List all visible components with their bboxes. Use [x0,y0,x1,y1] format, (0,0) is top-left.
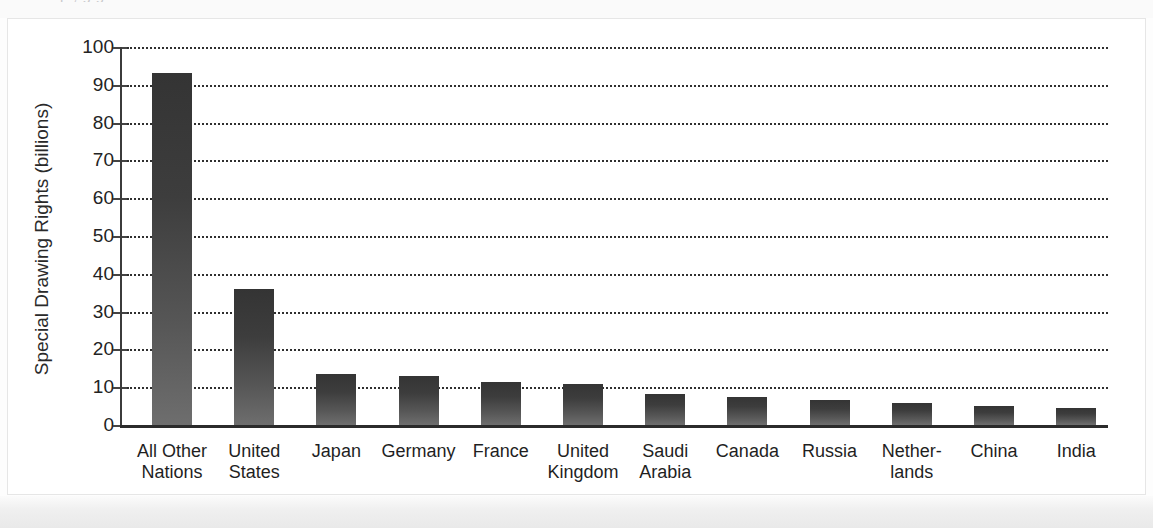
x-tick-label-line: States [199,462,309,483]
bar [1056,408,1096,425]
x-tick-label-line: Arabia [610,462,720,483]
plot-area: Special Drawing Rights (billions) 100908… [0,0,1153,528]
bar [399,376,439,425]
bar [974,406,1014,425]
x-tick-label-line: India [1021,441,1131,462]
bar [892,403,932,425]
bar [481,382,521,425]
x-tick-label: India [1021,441,1131,462]
bar [645,394,685,425]
bar [563,384,603,425]
chart-figure: p , g g Special Drawing Rights (billions… [0,0,1153,528]
bar [727,397,767,425]
bar [234,289,274,425]
bar [316,374,356,425]
bar [152,73,192,425]
bar [810,400,850,425]
scan-artifact-bottom [0,496,1153,528]
x-tick-label-line: lands [857,462,967,483]
